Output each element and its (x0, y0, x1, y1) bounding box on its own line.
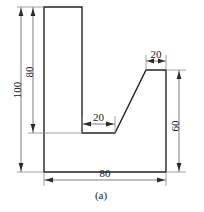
dimension-label-80-width: 80 (100, 167, 112, 179)
arrow-head-60-bottom (177, 163, 182, 171)
dimension-label-80-height: 80 (23, 66, 35, 78)
technical-drawing: 100 80 20 20 60 80 (a) (0, 0, 204, 212)
arrow-head-20-notch-right (106, 122, 114, 127)
dimension-label-100: 100 (11, 81, 23, 98)
dimension-label-20-notch: 20 (93, 111, 105, 123)
arrow-head-80-width-right (157, 178, 165, 183)
dimension-label-60: 60 (169, 120, 181, 132)
arrow-head-80-height-bottom (31, 124, 36, 132)
arrow-head-60-top (177, 71, 182, 79)
part-outline (44, 7, 166, 172)
arrow-head-80-width-left (45, 178, 53, 183)
arrow-head-20-notch-left (83, 122, 91, 127)
arrow-head-100-bottom (19, 163, 24, 171)
figure-canvas: 100 80 20 20 60 80 (a) (0, 0, 204, 212)
arrow-head-100-top (19, 8, 24, 16)
dimension-label-20-flange: 20 (151, 48, 163, 60)
arrow-head-80-height-top (31, 8, 36, 16)
figure-caption: (a) (95, 189, 108, 202)
